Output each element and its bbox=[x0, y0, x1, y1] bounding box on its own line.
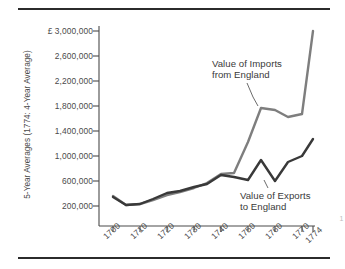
chart-figure: 5-Year Averages (1774: 4-Year Average) £… bbox=[0, 0, 345, 269]
y-tick-marks bbox=[93, 31, 99, 206]
annotation-imports-line2: from England bbox=[212, 69, 282, 80]
edge-fragment-mark: 1 bbox=[340, 216, 343, 222]
annotation-exports: Value of Exports to England bbox=[240, 190, 310, 213]
annotation-imports-line1: Value of Imports bbox=[212, 58, 282, 69]
leader-line-exports bbox=[264, 180, 268, 188]
plot-area bbox=[0, 0, 345, 269]
annotation-exports-line2: to England bbox=[240, 201, 310, 212]
annotation-imports: Value of Imports from England bbox=[212, 58, 282, 81]
x-tick-marks bbox=[113, 226, 313, 232]
annotation-exports-line1: Value of Exports bbox=[240, 190, 310, 201]
leader-line-imports bbox=[247, 83, 258, 106]
